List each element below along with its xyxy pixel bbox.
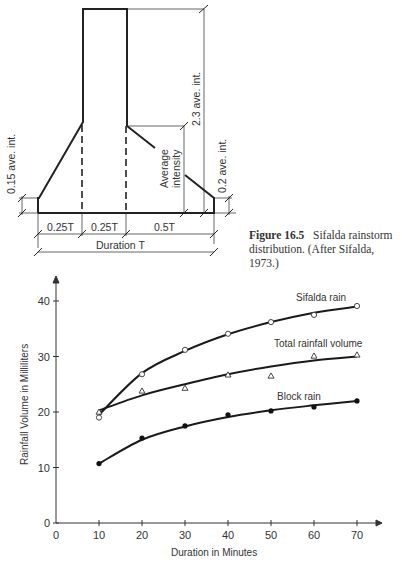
x-tick-label: 10 [93,529,105,541]
marker-open-circle [311,312,316,317]
label-seg1: 0.25T [47,221,74,233]
diagram-labels: 0.15 ave. int. 2.3 ave. int. Average int… [5,72,228,251]
x-tick-label: 30 [179,529,191,541]
y-tick-label: 30 [38,351,50,363]
y-tick-label: 40 [38,295,50,307]
figure-number: Figure 16.5 [249,229,304,241]
marker-filled-circle [182,423,187,428]
marker-filled-circle [311,404,316,409]
x-tick-label: 50 [265,529,277,541]
series-label-block: Block rain [277,391,321,402]
marker-filled-circle [354,398,359,403]
x-tick-label: 60 [308,529,320,541]
marker-open-circle [182,347,187,352]
marker-open-circle [354,303,359,308]
x-tick-label: 70 [351,529,363,541]
series-curves [99,307,357,464]
label-seg3: 0.5T [154,221,176,233]
marker-filled-circle [268,408,273,413]
marker-open-circle [268,319,273,324]
label-peak-height: 2.3 ave. int. [190,72,202,126]
marker-open-circle [139,372,144,377]
label-right-height: 0.2 ave. int. [216,139,228,193]
sifalda-diagram [18,5,236,256]
label-left-height: 0.15 ave. int. [5,134,17,194]
marker-open-triangle [268,373,274,378]
chart-axes [53,276,382,526]
label-avg-intensity-2: intensity [170,149,182,188]
x-tick-label: 0 [53,529,59,541]
marker-open-triangle [354,352,360,357]
x-tick-label: 20 [136,529,148,541]
label-duration: Duration T [96,239,145,251]
y-tick-label: 0 [44,517,50,529]
marker-open-triangle [139,388,145,393]
x-axis-label: Duration in Minutes [171,547,257,558]
marker-open-circle [96,415,101,420]
y-tick-label: 20 [38,406,50,418]
marker-filled-circle [139,435,144,440]
marker-open-triangle [182,385,188,390]
marker-filled-circle [225,412,230,417]
marker-open-triangle [311,353,317,358]
curve-2 [99,401,357,464]
y-tick-label: 10 [38,462,50,474]
series-label-total: Total rainfall volume [274,338,363,349]
series-label-sifalda: Sifalda rain [296,292,346,303]
y-axis-label: Rainfall Volume in Milliliters [19,344,30,465]
x-tick-label: 40 [222,529,234,541]
figure-canvas: 0.15 ave. int. 2.3 ave. int. Average int… [0,0,405,565]
label-seg2: 0.25T [91,221,118,233]
label-avg-intensity-1: Average [158,149,170,188]
chart: 010203040506070010203040 Rainfall Volume… [19,276,382,558]
curve-1 [99,357,357,411]
axis-ticks: 010203040506070010203040 [38,295,363,541]
marker-filled-circle [96,461,101,466]
marker-open-circle [225,331,230,336]
figure-caption: Figure 16.5 Sifalda rainstorm distributi… [249,228,405,270]
